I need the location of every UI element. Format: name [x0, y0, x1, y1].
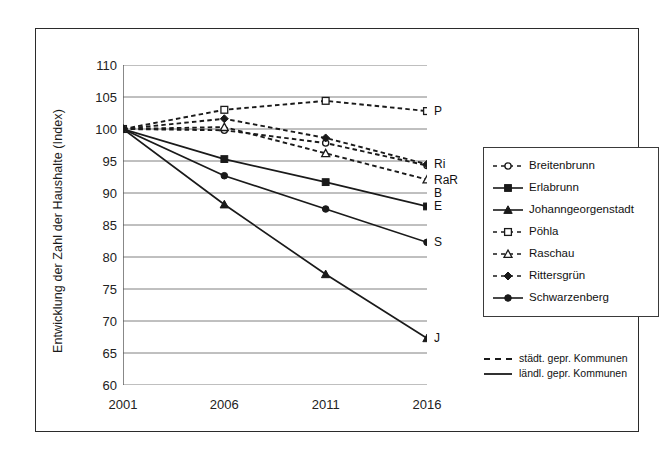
y-axis-tick-label: 90	[103, 187, 117, 200]
y-axis-title: Entwicklung der Zahl der Haushalte (Inde…	[44, 29, 72, 433]
legend-item-label: Breitenbrunn	[529, 160, 595, 172]
y-axis-tick-label: 65	[103, 347, 117, 360]
legend-marker-filled-square-icon	[491, 181, 525, 195]
series-endpoint-label: B	[434, 187, 442, 199]
series-Ri	[123, 115, 427, 168]
legend-marker-filled-circle-icon	[491, 291, 525, 305]
legend-item[interactable]: Johanngeorgenstadt	[491, 199, 653, 221]
legend-item[interactable]: Erlabrunn	[491, 177, 653, 199]
plot-svg	[123, 65, 427, 385]
linestyle-legend-label: städt. gepr. Kommunen	[519, 353, 628, 364]
series-P	[123, 97, 427, 132]
legend-marker-open-square-icon	[491, 225, 525, 239]
legend-marker-filled-triangle-icon	[491, 203, 525, 217]
legend-item[interactable]: Breitenbrunn	[491, 155, 653, 177]
x-axis-tick-label: 2016	[413, 398, 442, 411]
x-axis-tick-label: 2011	[312, 398, 340, 411]
x-axis-tick-label: 2006	[210, 398, 239, 411]
linestyle-legend-item: städt. gepr. Kommunen	[483, 351, 659, 366]
y-axis-tick-label: 75	[103, 283, 117, 296]
series-S	[123, 126, 427, 246]
series-endpoint-label: P	[434, 105, 442, 117]
legend-item-label: Erlabrunn	[529, 182, 579, 194]
series-J	[123, 125, 427, 342]
legend-item-label: Schwarzenberg	[529, 292, 609, 304]
legend-item[interactable]: Pöhla	[491, 221, 653, 243]
y-axis-tick-label: 60	[103, 379, 117, 392]
series-endpoint-label: J	[434, 332, 440, 344]
series-endpoint-label: RaR	[434, 174, 458, 186]
linestyle-legend-label: ländl. gepr. Kommunen	[519, 368, 627, 379]
linestyle-legend: städt. gepr. Kommunenländl. gepr. Kommun…	[483, 351, 659, 387]
y-axis-tick-label: 100	[95, 123, 117, 136]
y-axis-tick-label: 70	[103, 315, 117, 328]
chart-figure: Entwicklung der Zahl der Haushalte (Inde…	[35, 28, 639, 432]
legend-marker-filled-diamond-icon	[491, 269, 525, 283]
linestyle-dashed-icon	[483, 354, 513, 364]
y-axis-tick-label: 95	[103, 155, 117, 168]
series-endpoint-label: S	[434, 236, 442, 248]
linestyle-solid-icon	[483, 369, 513, 379]
linestyle-legend-item: ländl. gepr. Kommunen	[483, 366, 659, 381]
y-axis-tick-label: 80	[103, 251, 117, 264]
x-axis-tick-label: 2001	[109, 398, 138, 411]
legend-item-label: Rittersgrün	[529, 270, 585, 282]
series-endpoint-label: E	[434, 200, 442, 212]
legend-marker-open-triangle-icon	[491, 247, 525, 261]
series-endpoint-label: Ri	[434, 158, 445, 170]
y-axis-tick-label: 85	[103, 219, 117, 232]
legend-item-label: Johanngeorgenstadt	[529, 204, 634, 216]
legend-item-label: Raschau	[529, 248, 574, 260]
plot-area: 6065707580859095100105110200120062011201…	[123, 65, 427, 385]
legend-item[interactable]: Rittersgrün	[491, 265, 653, 287]
legend-item-label: Pöhla	[529, 226, 558, 238]
series-legend: BreitenbrunnErlabrunnJohanngeorgenstadtP…	[483, 147, 659, 317]
y-axis-tick-label: 110	[96, 59, 117, 72]
legend-item[interactable]: Raschau	[491, 243, 653, 265]
y-axis-tick-label: 105	[95, 91, 117, 104]
legend-marker-open-circle-icon	[491, 159, 525, 173]
legend-item[interactable]: Schwarzenberg	[491, 287, 653, 309]
